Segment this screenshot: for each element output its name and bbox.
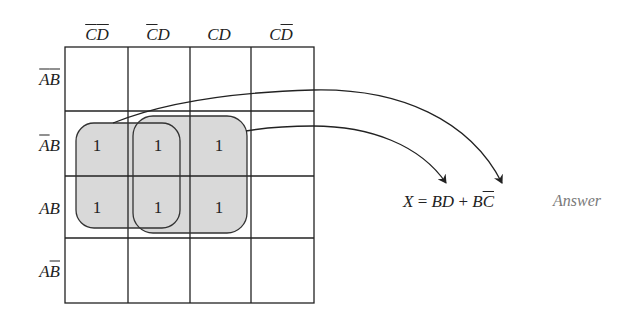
row-label-a-b: AB bbox=[39, 200, 60, 217]
row-label-a-bar-b: AB bbox=[39, 137, 60, 154]
column-label-c-d: CD bbox=[207, 26, 231, 43]
arrow-bd-to-term bbox=[246, 126, 446, 183]
cell-r2-c0: 1 bbox=[93, 199, 102, 216]
cell-r1-c1: 1 bbox=[154, 137, 163, 154]
cell-r1-c0: 1 bbox=[93, 137, 102, 154]
column-label-c-bar-d: CD bbox=[146, 26, 170, 43]
column-label-c-bar-d-bar: CD bbox=[85, 26, 109, 43]
cell-r2-c1: 1 bbox=[154, 199, 163, 216]
cell-r1-c2: 1 bbox=[215, 137, 224, 154]
equation-lhs: X bbox=[403, 192, 413, 211]
row-label-a-b-bar: AB bbox=[39, 263, 60, 280]
answer-label: Answer bbox=[553, 193, 601, 209]
equation-equals: = bbox=[418, 192, 428, 211]
column-label-c-d-bar: CD bbox=[269, 26, 293, 43]
row-label-a-bar-b-bar: AB bbox=[39, 71, 60, 88]
equation-term-bc-bar: BC bbox=[472, 192, 494, 211]
equation-term-bd: BD bbox=[431, 192, 454, 211]
simplified-expression: X = BD + BC bbox=[403, 193, 494, 210]
cell-r2-c2: 1 bbox=[215, 199, 224, 216]
kmap-diagram bbox=[0, 0, 643, 318]
equation-plus: + bbox=[458, 192, 468, 211]
